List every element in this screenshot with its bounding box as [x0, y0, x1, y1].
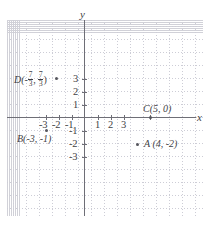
point-label-b: B(-3, -1) [17, 133, 51, 144]
y-tick-mark [82, 131, 87, 132]
y-axis-label: y [80, 8, 85, 20]
grid-line-horizontal [7, 169, 203, 170]
y-tick-label-neg3: -3 [69, 151, 77, 162]
point-label-c: C(5, 0) [143, 103, 171, 114]
coordinate-plane-figure: x y -3 -2 -1 1 2 3 3 2 1 -1 -2 -3 D(-73,… [0, 0, 209, 228]
grid-line-horizontal [7, 104, 203, 105]
y-tick-mark [82, 157, 87, 158]
grid-line-horizontal [7, 182, 203, 183]
point-label-d: D(-73, 73) [14, 71, 47, 87]
grid-line-horizontal [7, 208, 203, 209]
grid-line-horizontal [7, 52, 203, 53]
y-tick-label-2: 2 [73, 86, 78, 97]
y-tick-label-1: 1 [73, 99, 78, 110]
point-label-d-separator: , [33, 74, 38, 85]
y-tick-mark [82, 144, 87, 145]
grid-line-horizontal [7, 26, 203, 27]
x-tick-label-3: 3 [121, 119, 126, 130]
x-tick-label-2: 2 [108, 119, 113, 130]
point-label-d-tail: ) [43, 74, 46, 85]
point-label-a: A (4, -2) [144, 138, 177, 149]
x-tick-label-neg2: -2 [52, 119, 60, 130]
y-tick-mark [82, 79, 87, 80]
grid-line-horizontal [7, 39, 203, 40]
x-axis-line [7, 117, 196, 118]
grid-line-horizontal [7, 195, 203, 196]
grid-line-horizontal [7, 130, 203, 131]
grid-line-horizontal [7, 156, 203, 157]
y-tick-mark [82, 105, 87, 106]
grid-line-horizontal [7, 65, 203, 66]
y-axis-line [84, 20, 85, 216]
point-label-d-lead: D(- [14, 74, 28, 85]
y-tick-label-neg1: -1 [69, 125, 77, 136]
y-tick-label-neg2: -2 [69, 138, 77, 149]
x-tick-label-1: 1 [95, 119, 100, 130]
y-tick-mark [82, 92, 87, 93]
y-tick-label-3: 3 [73, 73, 78, 84]
x-axis-label: x [197, 111, 202, 123]
grid-line-horizontal [7, 91, 203, 92]
